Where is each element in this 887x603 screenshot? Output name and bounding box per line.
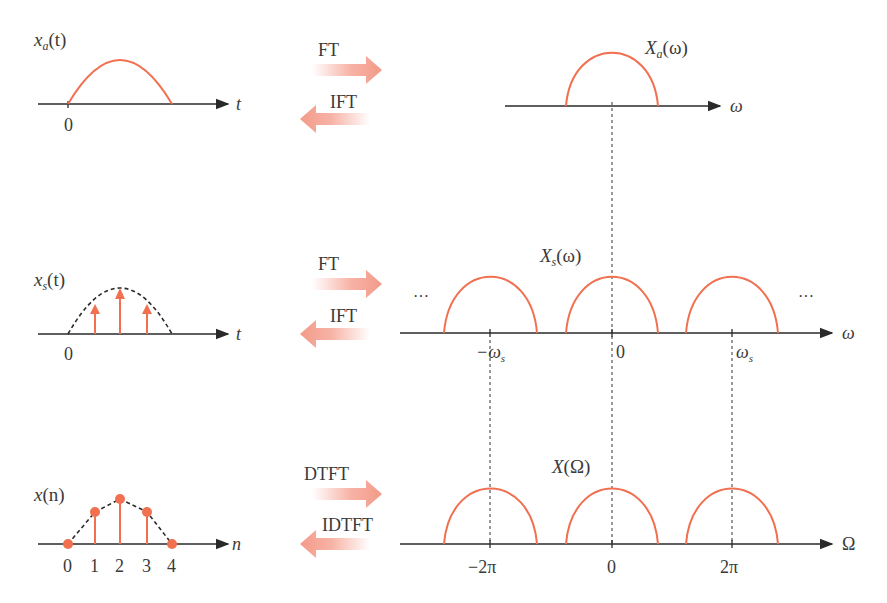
sample-point — [115, 494, 125, 504]
origin-label: 0 — [64, 115, 73, 135]
spectrum-replica-left — [444, 277, 537, 333]
inverse-label: IDTFT — [322, 515, 373, 535]
impulse-arrow-icon — [142, 304, 152, 314]
tick-label-neg-2pi: −2π — [468, 557, 496, 577]
tick-label: 2 — [115, 556, 124, 576]
axis-var-label: Ω — [842, 534, 855, 554]
forward-label: FT — [318, 254, 339, 274]
tick-label: 4 — [167, 556, 176, 576]
tick-label: 0 — [63, 556, 72, 576]
analog-signal-curve — [68, 60, 172, 104]
signal-label: xs(t) — [33, 269, 65, 293]
spectrum-label: X(Ω) — [551, 456, 590, 478]
axis-var-label: t — [236, 94, 242, 114]
forward-label: DTFT — [304, 464, 349, 484]
row-continuous-spectrum: ω Xa(ω) — [505, 37, 743, 116]
inverse-label: IFT — [330, 92, 357, 112]
spectrum-label: Xa(ω) — [644, 37, 688, 61]
forward-label: FT — [318, 40, 339, 60]
sample-point — [167, 539, 177, 549]
row-discrete-signal: 0 1 2 3 4 n x(n) — [33, 484, 241, 576]
axis-var-label: t — [236, 324, 242, 344]
origin-label: 0 — [64, 344, 73, 364]
tick-label-ws: ωs — [736, 342, 753, 364]
impulse-arrow-icon — [90, 304, 100, 314]
transform-arrows-row2: FT IFT — [300, 254, 382, 348]
tick-label-zero: 0 — [616, 342, 625, 362]
signal-label: x(n) — [33, 484, 65, 506]
spectrum-replica-right — [686, 277, 778, 333]
row-discrete-spectrum: Ω −2π 0 2π X(Ω) — [400, 456, 855, 577]
forward-arrow-icon — [312, 56, 382, 84]
tick-label-neg-ws: −ωs — [476, 342, 505, 364]
fourier-transform-diagram: 0 t xa(t) FT IFT ω Xa(ω) 0 t xs(t) FT IF… — [0, 0, 887, 603]
transform-arrows-row3: DTFT IDTFT — [300, 464, 382, 558]
row-continuous-signal: 0 t xa(t) — [33, 29, 242, 135]
sample-point — [63, 539, 73, 549]
signal-label: xa(t) — [33, 29, 66, 53]
axis-var-label: n — [232, 534, 241, 554]
axis-var-label: ω — [842, 323, 855, 343]
tick-label: 1 — [90, 556, 99, 576]
ellipsis-left: ··· — [413, 288, 429, 305]
row-sampled-spectrum: ··· ··· ω −ωs 0 ωs Xs(ω) — [400, 245, 855, 364]
spectrum-label: Xs(ω) — [539, 245, 581, 269]
tick-label: 3 — [142, 556, 151, 576]
inverse-label: IFT — [330, 306, 357, 326]
impulse-arrow-icon — [115, 288, 125, 299]
forward-arrow-icon — [312, 270, 382, 298]
row-sampled-signal: 0 t xs(t) — [33, 269, 242, 364]
sample-point — [142, 507, 152, 517]
transform-arrows-row1: FT IFT — [300, 40, 382, 133]
tick-label-zero: 0 — [607, 557, 616, 577]
sample-point — [90, 507, 100, 517]
axis-var-label: ω — [730, 96, 743, 116]
spectrum-hump — [566, 53, 658, 106]
tick-label-2pi: 2π — [720, 557, 738, 577]
ellipsis-right: ··· — [798, 288, 814, 305]
forward-arrow-icon — [312, 480, 382, 508]
